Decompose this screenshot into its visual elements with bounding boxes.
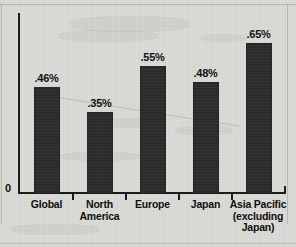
category-label-line: America xyxy=(73,211,126,223)
plot-area: .46%.35%.55%.48%.65% xyxy=(20,13,285,193)
x-axis-category-label: Europe xyxy=(126,199,179,211)
category-label-line: Global xyxy=(20,199,73,211)
x-axis-category-label: Global xyxy=(20,199,73,211)
bar xyxy=(34,87,60,193)
bar xyxy=(193,82,219,193)
bar-value-label: .46% xyxy=(20,73,73,84)
bar-value-label: .65% xyxy=(232,29,285,40)
bar-group: .46% xyxy=(20,13,73,193)
bar-value-label: .35% xyxy=(73,98,126,109)
bar-value-label: .55% xyxy=(126,52,179,63)
bar-chart-figure: 0 .46%.35%.55%.48%.65% GlobalNorthAmeric… xyxy=(0,0,296,247)
y-axis-zero-label: 0 xyxy=(5,183,11,194)
category-label-line: North xyxy=(73,199,126,211)
figure-border-right xyxy=(287,4,288,224)
category-label-line: Asia Pacific xyxy=(221,199,295,211)
bar xyxy=(140,66,166,193)
x-axis-category-labels: GlobalNorthAmericaEuropeJapanAsia Pacifi… xyxy=(20,199,285,245)
bar-value-label: .48% xyxy=(179,68,232,79)
figure-border-left xyxy=(1,4,2,224)
bar-group: .35% xyxy=(73,13,126,193)
figure-border-top xyxy=(0,4,296,5)
bar-group: .55% xyxy=(126,13,179,193)
category-label-line: Europe xyxy=(126,199,179,211)
x-axis-category-label: NorthAmerica xyxy=(73,199,126,222)
bar xyxy=(246,43,272,193)
bar xyxy=(87,112,113,193)
bar-group: .65% xyxy=(232,13,285,193)
category-label-line: Japan) xyxy=(221,222,295,234)
x-axis-category-label: Asia Pacific(excludingJapan) xyxy=(221,199,295,234)
bar-group: .48% xyxy=(179,13,232,193)
